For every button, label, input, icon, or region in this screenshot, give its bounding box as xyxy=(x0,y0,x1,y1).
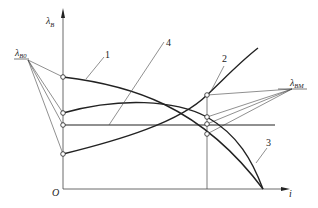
y-axis xyxy=(61,8,65,189)
left-focus: λB0 xyxy=(14,47,63,154)
curve-label-2: 2 xyxy=(222,53,227,64)
right-focus-label: λBM xyxy=(289,77,304,89)
curve-1 xyxy=(63,77,263,189)
curve-label-4: 4 xyxy=(166,37,171,48)
y-axis-label: λB xyxy=(45,15,54,28)
x-axis xyxy=(63,187,290,191)
x-axis-label: i xyxy=(289,188,292,199)
left-focus-label: λB0 xyxy=(14,47,27,59)
diagram: λB i O λB0 λBM 1 xyxy=(0,0,318,208)
origin-label: O xyxy=(52,187,59,198)
curve-label-3: 3 xyxy=(266,137,271,148)
curve-2 xyxy=(63,48,258,154)
curve-label-1: 1 xyxy=(105,49,110,60)
